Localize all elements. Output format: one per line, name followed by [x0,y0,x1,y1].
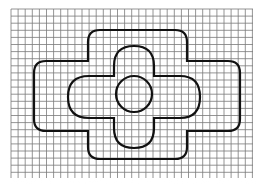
grid-lines [11,9,253,178]
diagram-canvas [0,0,268,188]
